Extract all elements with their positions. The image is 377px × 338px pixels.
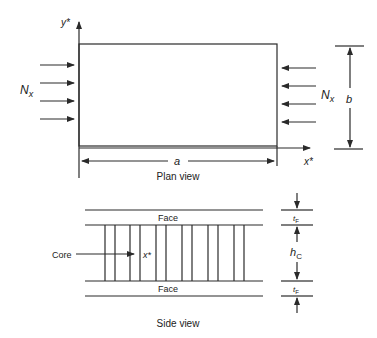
y-axis-label: y* [60,17,71,28]
face-thickness-bottom-label: tF [293,285,299,295]
core-thickness-label: hC [290,246,302,261]
length-label: a [174,155,180,167]
side-view [76,193,313,313]
left-load-arrows [40,65,74,119]
bottom-face-label: Face [158,284,178,294]
load-left-label: Nx [20,83,34,99]
top-face-label: Face [158,213,178,223]
load-right-label: Nx [321,88,335,104]
plan-view-caption: Plan view [157,171,201,182]
side-x-axis-label: x* [142,250,152,260]
core-label: Core [52,250,72,260]
diagram-svg: y* x* Nx Nx a b Plan view [0,0,377,338]
side-view-caption: Side view [157,318,201,329]
sandwich-panel-diagram: y* x* Nx Nx a b Plan view [0,0,377,338]
face-thickness-top-label: tF [293,214,299,224]
plan-view [40,22,364,178]
width-label: b [346,93,352,105]
x-axis-label: x* [303,156,314,167]
plate-outline [79,44,277,146]
core-cells [105,225,244,281]
right-load-arrows [282,68,316,122]
